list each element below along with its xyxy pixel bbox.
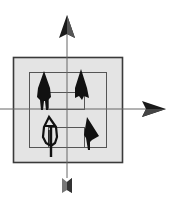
arrow-fletching-icon: [62, 178, 72, 193]
diagram-canvas: [0, 0, 181, 208]
